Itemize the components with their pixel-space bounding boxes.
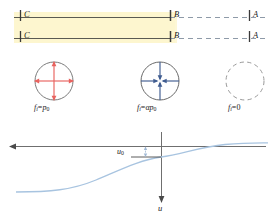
u-axis-arrowhead (159, 196, 165, 203)
eq-a-rhs: 0 (236, 103, 240, 112)
circle-outline-a (226, 62, 264, 100)
region-label-B-lower: B (174, 31, 179, 40)
state-circle-expansion (34, 61, 74, 101)
region-label-A-lower: A (253, 31, 258, 40)
eq-b-rhs: αp (145, 103, 153, 112)
top-panel (14, 10, 266, 43)
eq-c-rhs-sub: 0 (46, 106, 49, 112)
u0-label-sub: 0 (121, 150, 124, 156)
displacement-curve (16, 143, 268, 192)
state-circle-compression (141, 62, 179, 100)
equation-state-B: fi=αp0 (137, 104, 156, 113)
x-axis-arrowhead (9, 144, 16, 150)
u-axis-label: u (158, 204, 162, 213)
state-circle-unloaded (226, 62, 264, 100)
inward-arrowheads (153, 75, 166, 86)
bottom-panel (9, 132, 268, 203)
region-label-C-lower: C (24, 31, 30, 40)
u0-label: u0 (117, 148, 124, 157)
eq-b-rhs-sub: 0 (154, 106, 157, 112)
region-label-B-upper: B (174, 10, 179, 19)
region-label-A-upper: A (253, 10, 258, 19)
equation-state-C: fi=p0 (34, 104, 49, 113)
u0-gap-arrowhead-bottom (144, 154, 147, 158)
equation-state-A: fi=0 (228, 104, 240, 113)
region-label-C-upper: C (24, 10, 30, 19)
